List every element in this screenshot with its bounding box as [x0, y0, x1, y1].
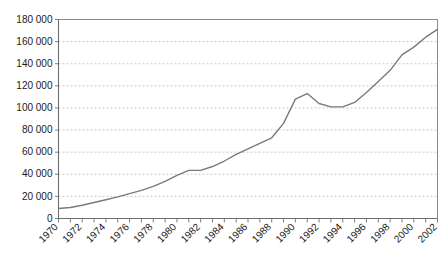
x-tick-label: 1998	[368, 221, 392, 245]
y-tick-label: 120 000	[16, 80, 53, 91]
y-tick-label: 20 000	[22, 191, 53, 202]
x-tick-label: 1976	[107, 221, 131, 245]
line-chart: 020 00040 00060 00080 000100 000120 0001…	[0, 0, 448, 270]
y-tick-label: 100 000	[16, 102, 53, 113]
x-tick-label: 1982	[179, 221, 203, 245]
y-axis-group	[55, 20, 59, 219]
y-tick-label: 40 000	[22, 168, 53, 179]
x-tick-label: 1980	[155, 221, 179, 245]
x-tick-label: 1974	[84, 221, 108, 245]
x-tick-label: 1984	[202, 221, 226, 245]
x-tick-label: 1988	[250, 221, 274, 245]
gridlines-group	[59, 42, 438, 197]
x-tick-label: 1972	[60, 221, 84, 245]
x-tick-label: 2002	[415, 221, 439, 245]
x-tick-label: 2000	[392, 221, 416, 245]
y-tick-label: 60 000	[22, 146, 53, 157]
y-tick-label: 160 000	[16, 36, 53, 47]
plot-border-group	[59, 20, 438, 219]
x-axis-group	[59, 219, 438, 223]
y-tick-label: 80 000	[22, 124, 53, 135]
data-line-series	[59, 29, 438, 208]
x-tick-labels-group: 1970197219741976197819801982198419861988…	[36, 221, 439, 245]
y-tick-labels-group: 020 00040 00060 00080 000100 000120 0001…	[16, 14, 53, 224]
x-tick-label: 1986	[226, 221, 250, 245]
x-tick-label: 1996	[344, 221, 368, 245]
x-tick-label: 1994	[321, 221, 345, 245]
y-tick-label: 180 000	[16, 14, 53, 25]
x-tick-label: 1970	[36, 221, 60, 245]
chart-canvas: 020 00040 00060 00080 000100 000120 0001…	[0, 0, 448, 270]
x-tick-label: 1992	[297, 221, 321, 245]
y-tick-label: 140 000	[16, 58, 53, 69]
data-series-group	[59, 29, 438, 208]
x-tick-label: 1978	[131, 221, 155, 245]
x-tick-label: 1990	[273, 221, 297, 245]
